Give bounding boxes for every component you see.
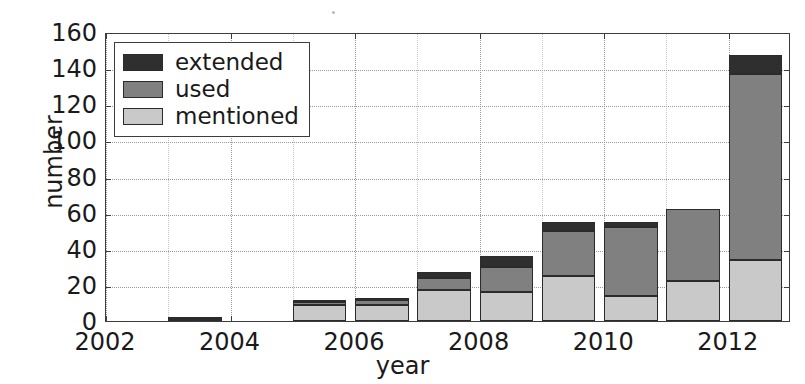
bar-segment-extended (168, 317, 222, 319)
y-tick-label: 100 (51, 129, 97, 153)
y-tick-label: 80 (66, 166, 97, 190)
y-tick-label: 60 (66, 202, 97, 226)
legend-label: used (175, 78, 230, 101)
legend-swatch-extended (123, 54, 163, 71)
y-tick-label: 160 (51, 21, 97, 45)
bar-segment-extended (417, 272, 471, 277)
y-tick-label: 140 (51, 57, 97, 81)
bar-stack (417, 32, 471, 321)
chart-legend: extendedusedmentioned (114, 42, 310, 137)
chart-figure: number year 020406080100120140160 200220… (0, 0, 805, 384)
y-tick-label: 120 (51, 93, 97, 117)
bar-segment-used (542, 231, 596, 276)
bar-stack (666, 32, 720, 321)
legend-label: mentioned (175, 105, 299, 128)
legend-item: extended (123, 49, 299, 76)
legend-swatch-mentioned (123, 108, 163, 125)
x-tick-label: 2006 (309, 330, 399, 354)
bar-segment-mentioned (355, 305, 409, 321)
y-axis-title: number (40, 102, 68, 222)
plot-area: extendedusedmentioned (105, 33, 790, 322)
bar-segment-mentioned (417, 290, 471, 321)
bar-stack (729, 32, 783, 321)
bar-segment-mentioned (293, 305, 347, 321)
x-tick-label: 2010 (558, 330, 648, 354)
legend-label: extended (175, 51, 283, 74)
bar-segment-used (168, 319, 222, 321)
legend-item: used (123, 76, 299, 103)
x-tick-label: 2008 (434, 330, 524, 354)
bar-segment-used (355, 300, 409, 305)
bar-segment-used (666, 209, 720, 281)
bar-segment-mentioned (480, 292, 534, 321)
bar-segment-mentioned (604, 296, 658, 321)
bar-segment-extended (480, 256, 534, 267)
x-tick-label: 2012 (683, 330, 773, 354)
bar-segment-mentioned (542, 276, 596, 321)
bar-segment-used (293, 302, 347, 305)
bar-segment-extended (293, 300, 347, 302)
bar-stack (355, 32, 409, 321)
bar-segment-used (480, 267, 534, 292)
bar-segment-mentioned (729, 260, 783, 321)
y-tick-label: 20 (66, 274, 97, 298)
bar-stack (604, 32, 658, 321)
x-axis-title: year (0, 352, 805, 380)
x-tick-label: 2002 (60, 330, 150, 354)
bar-segment-mentioned (666, 281, 720, 321)
bar-stack (542, 32, 596, 321)
y-tick-label: 40 (66, 238, 97, 262)
legend-item: mentioned (123, 103, 299, 130)
bar-segment-extended (542, 222, 596, 231)
bar-segment-used (417, 278, 471, 291)
bar-stack (480, 32, 534, 321)
bar-segment-extended (729, 55, 783, 73)
legend-swatch-used (123, 81, 163, 98)
bar-segment-extended (604, 222, 658, 227)
x-tick-label: 2004 (185, 330, 275, 354)
bar-segment-used (604, 227, 658, 296)
scan-artifact-speck (332, 11, 335, 14)
bar-segment-used (729, 74, 783, 260)
bar-segment-extended (355, 298, 409, 300)
